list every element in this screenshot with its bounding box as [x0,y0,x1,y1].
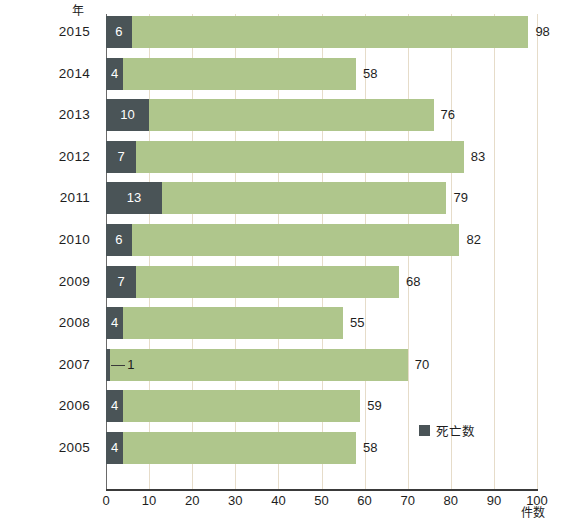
deaths-value-2011: 13 [106,182,162,214]
total-value-2014: 58 [363,58,377,90]
bar-row-2015[interactable]: 698 [106,16,537,48]
bar-segment-deaths-2009[interactable]: 7 [106,266,136,298]
bar-segment-deaths-2006[interactable]: 4 [106,390,123,422]
gridline-100 [537,14,538,490]
bar-row-2006[interactable]: 459 [106,390,537,422]
bar-segment-cases-2014[interactable] [123,58,356,90]
deaths-value-2015: 6 [106,16,132,48]
bar-segment-cases-2015[interactable] [132,16,529,48]
x-tick-label-90: 90 [474,493,514,508]
total-value-2006: 59 [367,390,381,422]
bar-segment-deaths-2010[interactable]: 6 [106,224,132,256]
year-label-2009: 2009 [28,266,90,298]
bar-segment-deaths-2015[interactable]: 6 [106,16,132,48]
bar-row-2012[interactable]: 783 [106,141,537,173]
total-value-2009: 68 [406,266,420,298]
year-label-2008: 2008 [28,307,90,339]
bar-segment-deaths-2012[interactable]: 7 [106,141,136,173]
bar-segment-deaths-2014[interactable]: 4 [106,58,123,90]
x-tick-label-0: 0 [86,493,126,508]
deaths-leader-line-2007 [111,365,125,366]
bar-segment-cases-2012[interactable] [136,141,464,173]
deaths-value-2008: 4 [106,307,123,339]
x-tick-label-40: 40 [258,493,298,508]
year-label-2005: 2005 [28,432,90,464]
total-value-2015: 98 [535,16,549,48]
year-label-2007: 2007 [28,349,90,381]
x-tick-label-20: 20 [172,493,212,508]
total-value-2005: 58 [363,432,377,464]
deaths-value-2012: 7 [106,141,136,173]
bar-segment-deaths-2005[interactable]: 4 [106,432,123,464]
x-tick-label-70: 70 [388,493,428,508]
x-tick-label-30: 30 [215,493,255,508]
year-label-2012: 2012 [28,141,90,173]
total-value-2012: 83 [471,141,485,173]
bar-segment-cases-2011[interactable] [162,182,446,214]
bar-segment-cases-2005[interactable] [123,432,356,464]
x-axis-line [106,489,538,491]
year-label-2011: 2011 [28,182,90,214]
bar-segment-deaths-2008[interactable]: 4 [106,307,123,339]
total-value-2011: 79 [453,182,467,214]
x-tick-label-50: 50 [302,493,342,508]
stacked-bar-chart: 年 0102030405060708090100 件数 死亡数 20156982… [0,0,570,521]
bar-segment-cases-2007[interactable] [110,349,407,381]
deaths-value-2009: 7 [106,266,136,298]
bar-segment-cases-2013[interactable] [149,99,433,131]
bar-row-2005[interactable]: 458 [106,432,537,464]
year-label-2014: 2014 [28,58,90,90]
x-tick-label-60: 60 [345,493,385,508]
deaths-value-2007: 1 [127,349,134,381]
deaths-value-2014: 4 [106,58,123,90]
deaths-value-2010: 6 [106,224,132,256]
deaths-value-2006: 4 [106,390,123,422]
deaths-value-2013: 10 [106,99,149,131]
bar-segment-deaths-2011[interactable]: 13 [106,182,162,214]
bar-row-2010[interactable]: 682 [106,224,537,256]
total-value-2008: 55 [350,307,364,339]
x-tick-label-10: 10 [129,493,169,508]
year-label-2013: 2013 [28,99,90,131]
bar-row-2011[interactable]: 1379 [106,182,537,214]
bar-segment-cases-2009[interactable] [136,266,399,298]
bar-segment-deaths-2013[interactable]: 10 [106,99,149,131]
bar-segment-cases-2006[interactable] [123,390,360,422]
year-label-2015: 2015 [28,16,90,48]
bar-row-2013[interactable]: 1076 [106,99,537,131]
bar-row-2007[interactable]: 170 [106,349,537,381]
deaths-value-2005: 4 [106,432,123,464]
total-value-2013: 76 [441,99,455,131]
bar-row-2014[interactable]: 458 [106,58,537,90]
year-label-2010: 2010 [28,224,90,256]
bar-row-2009[interactable]: 768 [106,266,537,298]
x-axis-unit-label: 件数 [521,507,545,520]
x-tick-label-80: 80 [431,493,471,508]
bar-segment-cases-2008[interactable] [123,307,343,339]
bar-segment-cases-2010[interactable] [132,224,460,256]
total-value-2007: 70 [415,349,429,381]
year-label-2006: 2006 [28,390,90,422]
total-value-2010: 82 [466,224,480,256]
bar-row-2008[interactable]: 455 [106,307,537,339]
